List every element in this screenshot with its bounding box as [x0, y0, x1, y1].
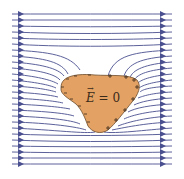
vector-arrow-icon: →: [87, 84, 94, 93]
field-label: → E = 0: [86, 91, 120, 105]
field-symbol: E: [86, 91, 95, 105]
field-value: = 0: [99, 91, 121, 105]
